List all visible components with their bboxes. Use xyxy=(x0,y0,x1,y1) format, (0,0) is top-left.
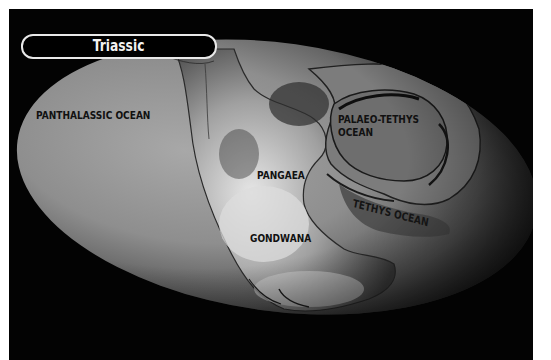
page: Triassic PANTHALASSIC OCEAN PALAEO-TETHY… xyxy=(0,0,551,360)
label-pangaea: PANGAEA xyxy=(257,169,305,182)
label-gondwana: GONDWANA xyxy=(250,232,311,245)
label-palaeo-tethys-line2: OCEAN xyxy=(338,126,419,139)
label-palaeo-tethys-line1: PALAEO-TETHYS xyxy=(338,113,419,126)
period-title: Triassic xyxy=(93,39,145,54)
period-title-pill: Triassic xyxy=(21,34,217,59)
label-palaeo-tethys-ocean: PALAEO-TETHYS OCEAN xyxy=(338,113,419,139)
globe-map xyxy=(9,9,533,360)
label-panthalassic-ocean: PANTHALASSIC OCEAN xyxy=(36,109,150,122)
map-panel: Triassic PANTHALASSIC OCEAN PALAEO-TETHY… xyxy=(9,9,533,360)
